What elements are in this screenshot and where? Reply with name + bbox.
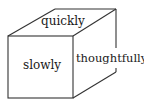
side-face-label: thoughtfully (75, 53, 144, 65)
cube-bottom-right-edge (73, 72, 116, 98)
top-face-label: quickly (41, 15, 85, 27)
front-face-label: slowly (23, 59, 61, 71)
